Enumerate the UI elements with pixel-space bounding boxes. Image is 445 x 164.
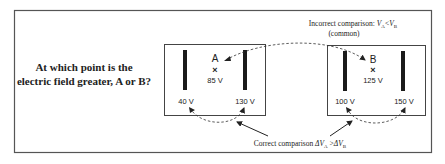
panel-b-left-voltage: 100 V <box>335 97 355 106</box>
correct-pointer-b <box>330 121 352 136</box>
incorrect-arrowhead-a <box>224 56 231 61</box>
panel-b-right-plate <box>401 51 405 91</box>
question-line-2: electric field greater, A or B? <box>17 75 151 87</box>
panel-a-right-plate <box>243 50 247 90</box>
panel-b-left-plate <box>343 51 347 91</box>
question: At which point is the electric field gre… <box>17 61 151 87</box>
incorrect-prefix: Incorrect comparison: <box>309 19 377 28</box>
point-a-marker: × <box>212 65 217 75</box>
correct-pointer-a <box>237 122 268 136</box>
point-b-marker: × <box>370 65 375 75</box>
correct-comparison-label: Correct comparison ΔVA >ΔVB <box>254 139 347 149</box>
panel-b: B × 125 V 100 V 150 V <box>328 46 426 116</box>
question-line-1: At which point is the <box>35 61 132 73</box>
svg-text:Correct comparison ΔVA >ΔVB: Correct comparison ΔVA >ΔVB <box>254 139 347 149</box>
panel-a-left-plate <box>183 50 187 90</box>
panel-a: A × 85 V 40 V 130 V <box>165 45 266 116</box>
incorrect-comparison-label: Incorrect comparison: VA<VB (common) <box>309 19 398 38</box>
point-b-voltage: 125 V <box>363 76 383 85</box>
panel-a-right-voltage: 130 V <box>235 97 255 106</box>
point-b-label: B <box>370 54 377 65</box>
correct-arrowhead-a-left <box>189 107 195 113</box>
point-a-voltage: 85 V <box>207 76 222 85</box>
panel-a-left-voltage: 40 V <box>178 97 193 106</box>
panel-b-right-voltage: 150 V <box>394 97 414 106</box>
point-a-label: A <box>212 53 219 64</box>
correct-prefix: Correct comparison <box>254 139 315 148</box>
diagram-canvas: At which point is the electric field gre… <box>0 0 445 164</box>
incorrect-note: (common) <box>328 29 360 38</box>
svg-text:Incorrect comparison: VA<VB: Incorrect comparison: VA<VB <box>309 19 398 29</box>
